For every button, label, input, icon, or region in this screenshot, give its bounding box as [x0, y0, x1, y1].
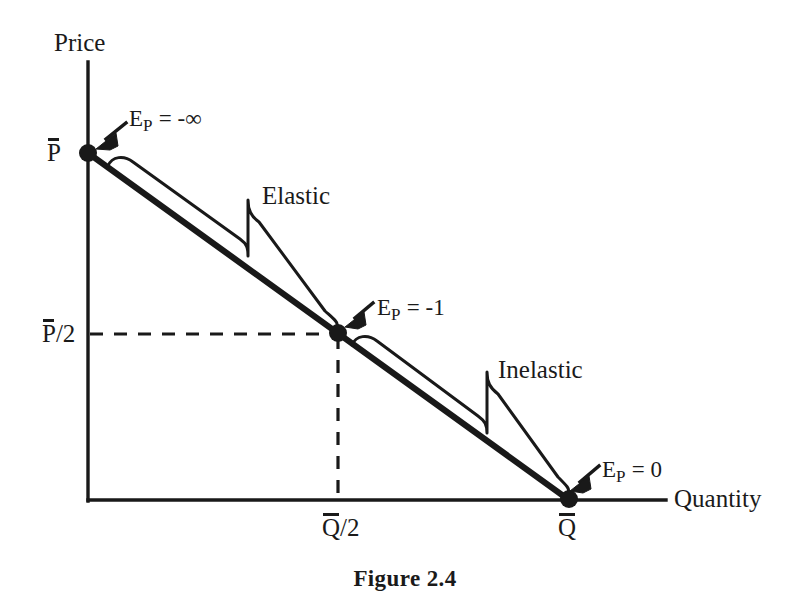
arrow-to-bottom-point	[570, 466, 599, 493]
elasticity-subscript-top: P	[143, 116, 152, 135]
point-dot-bottom	[560, 490, 578, 508]
elasticity-annotation-bottom: EP = 0	[602, 458, 662, 485]
elasticity-subscript-bottom: P	[616, 467, 625, 486]
x-tick-qbar-half-suffix: /2	[340, 514, 359, 541]
x-tick-label-qbar: Q	[558, 515, 576, 540]
y-tick-pbar-symbol: P	[47, 140, 61, 165]
elasticity-annotation-top: EP = -∞	[129, 107, 202, 134]
elasticity-annotation-midpoint: EP = -1	[377, 296, 445, 323]
y-tick-pbar-half-suffix: /2	[56, 320, 75, 347]
x-tick-label-qbar-half: Q/2	[322, 515, 360, 540]
point-dot-top	[79, 144, 97, 162]
elasticity-subscript-midpoint: P	[391, 305, 400, 324]
y-tick-label-pbar: P	[47, 140, 61, 165]
elasticity-symbol-top: E	[129, 106, 143, 131]
x-tick-qbar-half-symbol: Q	[322, 515, 340, 540]
elasticity-equals-bottom: =	[632, 457, 645, 482]
elasticity-value-top: -∞	[178, 106, 202, 131]
figure-caption: Figure 2.4	[0, 566, 810, 592]
x-tick-qbar-symbol: Q	[558, 515, 576, 540]
elasticity-symbol-midpoint: E	[377, 295, 391, 320]
elasticity-value-midpoint: -1	[426, 295, 445, 320]
point-dot-midpoint	[329, 324, 347, 342]
y-tick-pbar-half-symbol: P	[42, 321, 56, 346]
elasticity-equals-midpoint: =	[407, 295, 420, 320]
elasticity-value-bottom: 0	[651, 457, 663, 482]
elasticity-symbol-bottom: E	[602, 457, 616, 482]
y-axis-title: Price	[54, 30, 105, 55]
x-axis-title: Quantity	[674, 486, 762, 511]
region-label-elastic: Elastic	[262, 183, 330, 208]
arrow-to-midpoint	[345, 303, 373, 329]
y-tick-label-pbar-half: P/2	[42, 321, 75, 346]
figure-container: Price Quantity P P/2 Q/2 Q Elastic Inela…	[0, 0, 810, 607]
elasticity-equals-top: =	[159, 106, 172, 131]
region-label-inelastic: Inelastic	[498, 357, 583, 382]
arrow-to-top-point	[96, 123, 126, 150]
